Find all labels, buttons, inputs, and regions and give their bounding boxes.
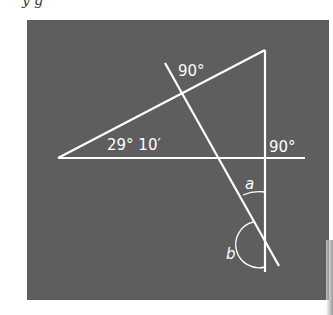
angle-a-label: a: [245, 175, 254, 193]
bottom-right-angle-label: 90°: [269, 138, 296, 156]
hypotenuse-line: [58, 50, 265, 158]
angle-arc-b: [236, 222, 265, 268]
left-angle-label: 29° 10′: [107, 136, 161, 154]
top-right-angle-label: 90°: [178, 62, 205, 80]
transversal-line: [165, 63, 279, 266]
angle-b-label: b: [226, 245, 236, 263]
geometry-diagram: 29° 10′ 90° 90° a b: [0, 0, 333, 315]
